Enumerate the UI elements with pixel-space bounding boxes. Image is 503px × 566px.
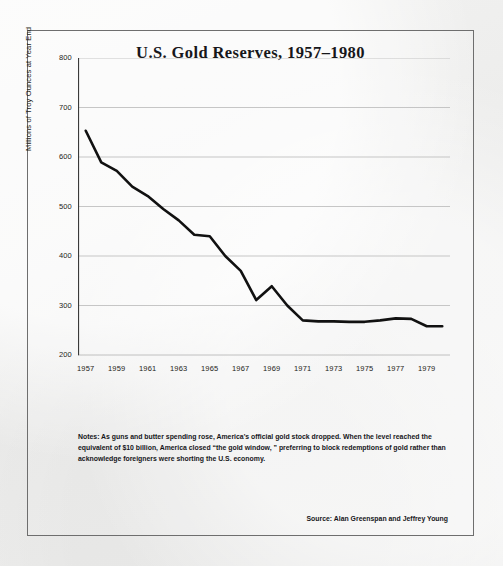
y-axis-tick-label: 700	[46, 103, 72, 112]
y-axis-tick-label: 600	[46, 152, 72, 161]
note-line: Notes: As guns and butter spending rose,…	[78, 431, 438, 442]
x-axis-tick-label: 1959	[102, 364, 132, 373]
y-axis-tick-label: 400	[46, 251, 72, 260]
chart-notes: Notes: As guns and butter spending rose,…	[78, 431, 438, 464]
gridlines	[78, 58, 450, 355]
data-series-line	[86, 131, 443, 327]
x-axis-tick-label: 1969	[257, 364, 287, 373]
y-axis-tick-label: 500	[46, 202, 72, 211]
y-axis-title: Millions of Troy Ounces at Year End	[24, 0, 33, 151]
chart-source: Source: Alan Greenspan and Jeffrey Young	[28, 515, 448, 522]
x-axis-tick-label: 1963	[164, 364, 194, 373]
figure-frame: U.S. Gold Reserves, 1957–1980 Millions o…	[27, 30, 474, 536]
x-axis-tick-label: 1973	[319, 364, 349, 373]
x-axis-tick-label: 1957	[71, 364, 101, 373]
x-axis-tick-label: 1975	[350, 364, 380, 373]
x-axis-tick-label: 1971	[288, 364, 318, 373]
x-axis-tick-label: 1965	[195, 364, 225, 373]
note-line: acknowledge foreigners were shorting the…	[78, 453, 438, 464]
note-line: equivalent of $10 billion, America close…	[78, 442, 438, 453]
y-axis-tick-label: 200	[46, 350, 72, 359]
x-axis-tick-label: 1961	[133, 364, 163, 373]
x-axis-tick-label: 1977	[381, 364, 411, 373]
y-axis-tick-label: 800	[46, 53, 72, 62]
y-axis-tick-label: 300	[46, 301, 72, 310]
line-chart-svg	[78, 58, 450, 385]
x-axis-tick-label: 1967	[226, 364, 256, 373]
x-axis-tick-label: 1979	[412, 364, 442, 373]
plot-area	[78, 58, 450, 385]
